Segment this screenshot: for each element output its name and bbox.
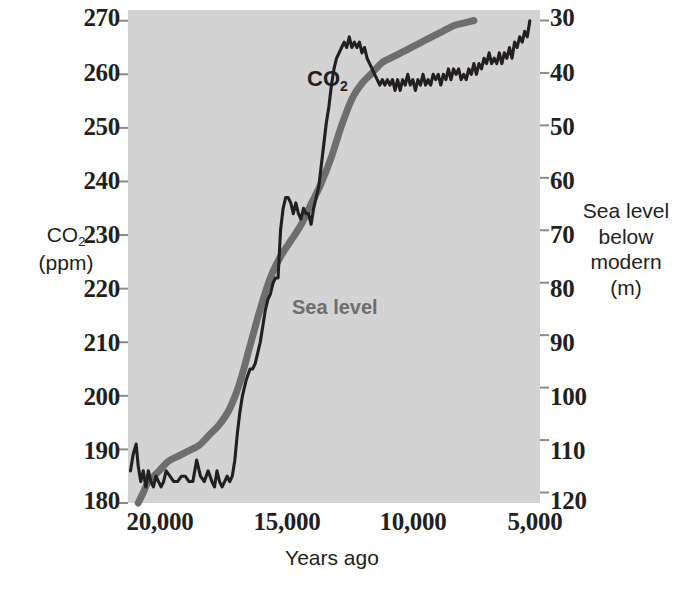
left-tick-190: 190: [54, 437, 120, 465]
x-tick-20000: 20,000: [95, 508, 225, 536]
right-tick-110: 110: [550, 437, 585, 465]
left-axis-title-line2: (ppm): [39, 251, 94, 274]
right-axis-title-line1: Sea level: [583, 199, 669, 222]
left-axis-title: CO2 (ppm): [16, 222, 116, 275]
x-tick-5000: 5,000: [470, 508, 600, 536]
x-tick-15000: 15,000: [222, 508, 352, 536]
series-label-co2: CO2: [307, 66, 348, 94]
right-tick-70: 70: [550, 221, 574, 249]
left-tick-210: 210: [54, 329, 120, 357]
right-axis-title-line2: below: [599, 225, 654, 248]
series-label-co2-text: CO: [307, 66, 340, 91]
series-label-co2-sub: 2: [340, 78, 348, 94]
right-tick-100: 100: [550, 383, 587, 411]
right-tick-40: 40: [550, 59, 574, 87]
right-tick-60: 60: [550, 167, 574, 195]
right-axis-ticks: [540, 20, 549, 492]
series-label-sea-level: Sea level: [292, 296, 378, 319]
left-axis-title-line1: CO: [47, 223, 79, 246]
left-tick-200: 200: [54, 383, 120, 411]
x-tick-10000: 10,000: [348, 508, 478, 536]
left-tick-220: 220: [54, 275, 120, 303]
right-axis-title-line4: (m): [610, 276, 641, 299]
left-axis-title-sub: 2: [78, 234, 85, 249]
right-tick-80: 80: [550, 275, 574, 303]
right-tick-50: 50: [550, 113, 574, 141]
right-axis-title-line3: modern: [590, 250, 661, 273]
x-axis-title: Years ago: [252, 545, 412, 571]
right-axis-title: Sea level below modern (m): [578, 198, 674, 300]
left-tick-270: 270: [54, 4, 120, 32]
left-axis-ticks: [119, 21, 128, 503]
right-tick-30: 30: [550, 4, 574, 32]
left-tick-240: 240: [54, 167, 120, 195]
right-tick-90: 90: [550, 329, 574, 357]
figure-co2-sealevel: 270 260 250 240 230 220 210 200 190 180 …: [0, 0, 678, 591]
left-tick-260: 260: [54, 59, 120, 87]
left-tick-250: 250: [54, 113, 120, 141]
